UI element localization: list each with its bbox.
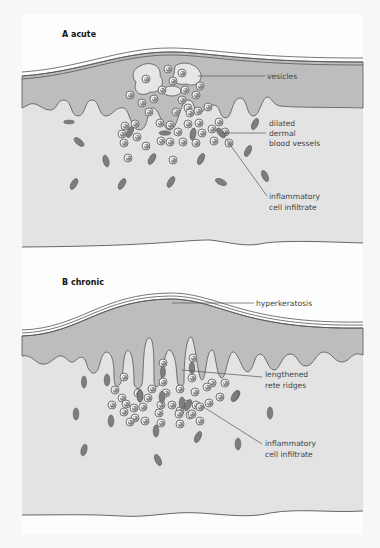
panel-b-chronic: B chronic — [22, 278, 363, 516]
panel-a-title: A acute — [62, 30, 97, 39]
label-vesicles: vesicles — [267, 72, 297, 81]
label-vessels-1: dilated — [269, 119, 295, 128]
label-rete-1: lengthened — [265, 370, 308, 379]
label-infiltrate-b-2: cell infiltrate — [265, 450, 313, 459]
panel-b-title: B chronic — [62, 278, 104, 287]
label-vessels-3: blood vessels — [269, 139, 320, 148]
label-vessels-2: dermal — [269, 129, 296, 138]
label-infiltrate-a-2: cell infiltrate — [269, 203, 317, 212]
label-infiltrate-a-1: inflammatory — [269, 192, 321, 201]
label-hyperkeratosis: hyperkeratosis — [256, 299, 312, 308]
label-rete-2: rete ridges — [265, 381, 306, 390]
panel-a-acute: A acute — [22, 30, 363, 247]
dermatitis-diagram: A acute — [0, 0, 380, 548]
label-infiltrate-b-1: inflammatory — [265, 439, 317, 448]
